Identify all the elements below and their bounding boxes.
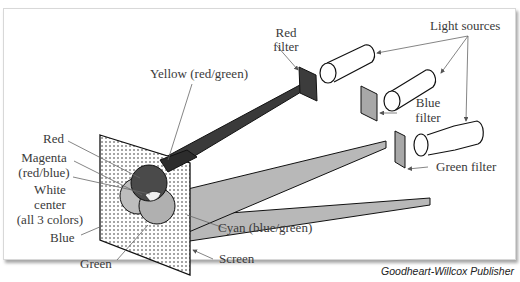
light-source-3 [414,121,483,156]
label-red: Red [43,131,64,146]
blue-filter [361,86,377,121]
label-white-1: White [34,182,66,197]
color-mixing-diagram: Red filter Light sources Yellow (red/gre… [0,0,520,282]
label-light-sources: Light sources [430,18,500,33]
label-white-2: center [34,197,66,212]
label-white-3: (all 3 colors) [17,212,83,227]
label-yellow: Yellow (red/green) [150,66,248,81]
label-green: Green [80,256,112,271]
label-red-filter-2: filter [273,39,299,54]
label-blue: Blue [50,230,75,245]
label-blue-filter-1: Blue [416,95,441,110]
light-source-1 [320,45,374,83]
label-magenta-2: (red/blue) [18,165,69,180]
label-screen: Screen [219,251,255,266]
label-cyan: Cyan (blue/green) [218,220,312,235]
label-blue-filter-2: filter [415,110,441,125]
publisher-credit: Goodheart-Willcox Publisher [381,265,514,277]
label-magenta-1: Magenta [21,150,67,165]
label-green-filter: Green filter [436,159,497,174]
red-filter [299,67,317,101]
label-red-filter-1: Red [276,25,297,40]
green-filter [395,131,405,168]
